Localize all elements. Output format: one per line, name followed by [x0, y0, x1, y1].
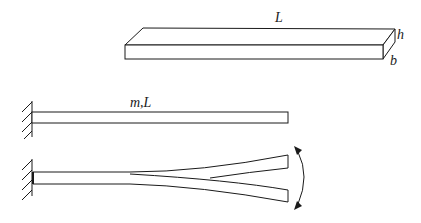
width-label: b — [390, 53, 397, 68]
oscillation-arrow-icon — [294, 146, 304, 210]
beam-diagram: L h b m,L — [0, 0, 421, 223]
wall-hatching-icon — [22, 160, 32, 200]
length-label: L — [274, 10, 283, 25]
bar-3d — [125, 28, 395, 59]
vibrating-cantilever — [22, 146, 304, 210]
height-label: h — [397, 27, 404, 42]
mass-length-label: m,L — [130, 95, 152, 110]
wall-hatching-icon — [22, 102, 32, 139]
cantilever-beam — [22, 101, 288, 139]
